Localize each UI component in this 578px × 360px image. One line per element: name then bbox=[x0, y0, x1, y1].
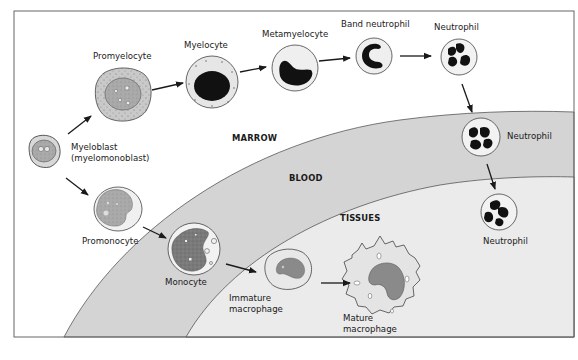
promyelocyte-cell-icon bbox=[95, 68, 151, 121]
neutrophil-blood-cell-icon bbox=[462, 118, 500, 156]
neutrophil-marrow-label: Neutrophil bbox=[434, 22, 479, 33]
myelocyte-cell-icon bbox=[186, 56, 238, 108]
monocyte-label: Monocyte bbox=[165, 277, 207, 288]
promonocyte-label: Promonocyte bbox=[82, 236, 138, 247]
neutrophil-tissue-label: Neutrophil bbox=[483, 236, 528, 247]
blood-label: BLOOD bbox=[289, 173, 323, 184]
metamyelocyte-cell-icon bbox=[272, 45, 318, 91]
mature-macrophage-label: Mature macrophage bbox=[343, 313, 397, 335]
myelocyte-label: Myelocyte bbox=[184, 40, 228, 51]
immature-macrophage-label: Immature macrophage bbox=[229, 293, 283, 315]
band-neutrophil-cell-icon bbox=[356, 38, 392, 74]
metamyelocyte-label: Metamyelocyte bbox=[262, 29, 328, 40]
neutrophil-marrow-cell-icon bbox=[441, 39, 477, 75]
myeloblast-label: Myeloblast (myelomonoblast) bbox=[71, 142, 149, 164]
promonocyte-cell-icon bbox=[94, 187, 142, 231]
myeloblast-cell-icon bbox=[29, 135, 60, 167]
neutrophil-blood-label: Neutrophil bbox=[507, 131, 552, 142]
neutrophil-tissue-cell-icon bbox=[481, 194, 517, 230]
immature-macrophage-cell-icon bbox=[265, 249, 312, 289]
tissues-label: TISSUES bbox=[340, 213, 380, 224]
band-neutrophil-label: Band neutrophil bbox=[341, 19, 410, 30]
diagram-canvas: MARROW BLOOD TISSUES Myeloblast (myelomo… bbox=[0, 0, 578, 360]
monocyte-cell-icon bbox=[168, 223, 220, 275]
marrow-label: MARROW bbox=[232, 133, 277, 144]
promyelocyte-label: Promyelocyte bbox=[93, 51, 152, 62]
